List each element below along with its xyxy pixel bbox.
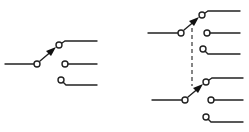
pivot-terminal	[182, 97, 188, 103]
output-wire-3	[208, 119, 243, 122]
contact-2-terminal	[208, 97, 214, 103]
output-wire-1	[62, 41, 97, 43]
ganged-switch-pole-b	[152, 78, 243, 122]
contact-1-terminal	[203, 79, 209, 85]
output-wire-3	[63, 82, 97, 85]
contact-2-terminal	[204, 30, 210, 36]
contact-2-terminal	[62, 61, 68, 67]
pivot-terminal	[34, 61, 40, 67]
contact-1-terminal	[56, 42, 62, 48]
output-wire-3	[205, 51, 240, 54]
output-wire-1	[209, 78, 243, 80]
contact-1-terminal	[199, 12, 205, 18]
ganged-switch-pole-a	[148, 11, 240, 54]
output-wire-1	[205, 11, 240, 13]
pivot-terminal	[178, 30, 184, 36]
sp3t-switch	[5, 41, 97, 85]
switch-diagram	[0, 0, 249, 132]
